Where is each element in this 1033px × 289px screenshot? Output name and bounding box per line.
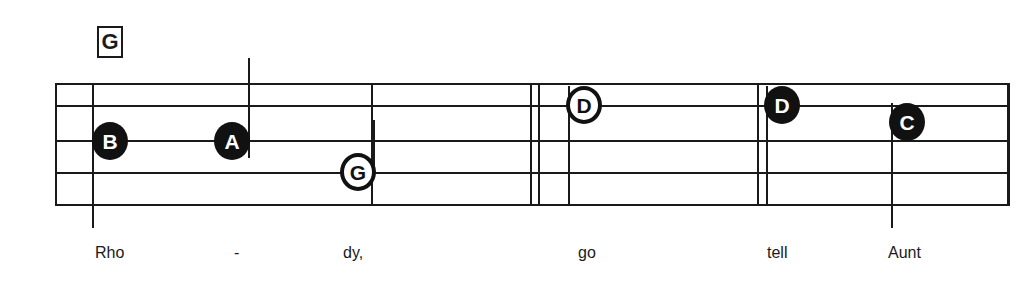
note-g[interactable]: G <box>340 120 380 200</box>
notehead-g-label: G <box>350 162 366 183</box>
notehead-g[interactable]: G <box>340 153 376 191</box>
start-barline <box>55 83 57 206</box>
staff-line-4 <box>55 105 1010 107</box>
notehead-d-1-label: D <box>576 95 591 116</box>
final-barline <box>1007 83 1010 206</box>
notehead-d-1[interactable]: D <box>566 86 602 124</box>
measure-barline-2a <box>530 83 532 206</box>
staff-line-5 <box>55 83 1010 85</box>
note-a[interactable]: A <box>213 58 253 173</box>
chord-symbol-label: G <box>101 31 118 53</box>
notehead-d-2-label: D <box>774 95 789 116</box>
note-b[interactable]: B <box>92 83 132 228</box>
lyric-3: dy, <box>343 245 363 261</box>
staff-line-1 <box>55 204 1010 206</box>
notehead-a-label: A <box>224 131 239 152</box>
staff-line-2 <box>55 172 1010 174</box>
note-d-1[interactable]: D <box>566 83 606 206</box>
note-d-2[interactable]: D <box>764 83 804 206</box>
notehead-a[interactable]: A <box>214 122 250 160</box>
music-notation-sheet: G B A G <box>0 0 1033 289</box>
staff <box>55 83 1010 206</box>
lyric-1: Rho <box>95 245 124 261</box>
staff-line-3 <box>55 140 1010 142</box>
notehead-d-2[interactable]: D <box>764 86 800 124</box>
measure-barline-3 <box>757 83 759 206</box>
note-c[interactable]: C <box>889 100 929 230</box>
lyric-2: - <box>234 245 239 261</box>
lyric-4: go <box>578 245 596 261</box>
lyric-6: Aunt <box>888 245 921 261</box>
notehead-b[interactable]: B <box>92 122 128 160</box>
notehead-b-label: B <box>102 131 117 152</box>
notehead-c[interactable]: C <box>889 103 925 141</box>
measure-barline-2b <box>538 83 540 206</box>
notehead-c-label: C <box>899 112 914 133</box>
lyric-5: tell <box>767 245 787 261</box>
chord-symbol-box: G <box>97 26 123 58</box>
